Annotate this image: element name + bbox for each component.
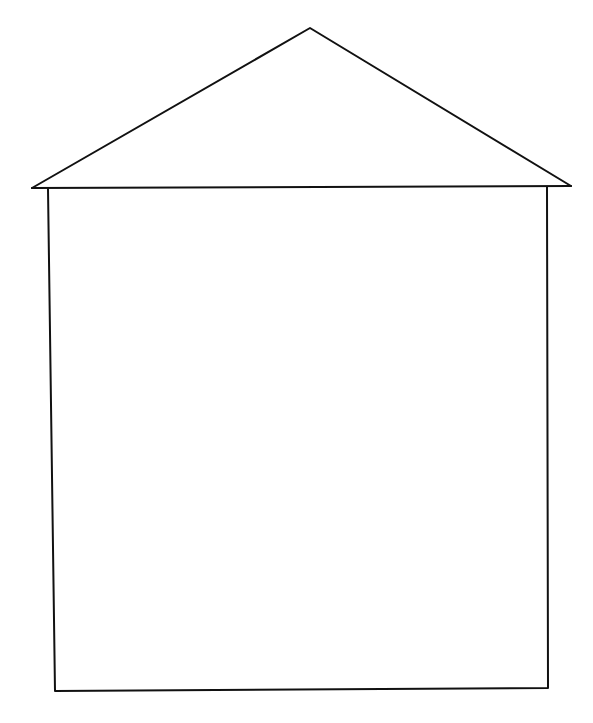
- house-body-walls: [48, 187, 548, 691]
- house-drawing: [0, 0, 593, 723]
- roof-triangle: [32, 28, 571, 188]
- eave-line: [32, 186, 571, 188]
